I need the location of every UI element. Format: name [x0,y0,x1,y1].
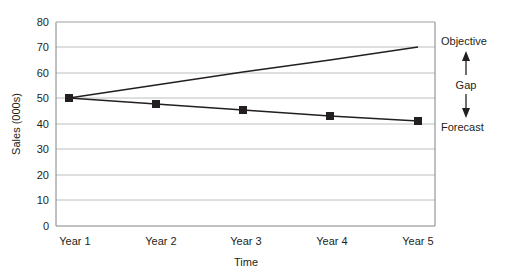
y-axis-tick-labels: 80 70 60 50 40 30 20 10 0 [37,16,49,232]
x-tick-label-year-3: Year 3 [230,235,261,247]
annotation-objective-label: Objective [441,35,487,47]
y-tick-label-60: 60 [37,67,49,79]
y-tick-label-70: 70 [37,41,49,53]
y-tick-label-20: 20 [37,169,49,181]
annotation-forecast-label: Forecast [441,121,484,133]
data-point-forecast-year-1 [65,94,73,102]
annotation-gap-label: Gap [456,79,477,91]
y-tick-label-40: 40 [37,118,49,130]
data-point-forecast-year-2 [152,100,160,108]
data-point-forecast-year-3 [239,106,247,114]
y-tick-label-10: 10 [37,194,49,206]
y-tick-label-30: 30 [37,143,49,155]
sales-objective-gap-line-chart: 80 70 60 50 40 30 20 10 0 Sales (000s) Y… [0,0,505,279]
y-tick-label-80: 80 [37,16,49,28]
y-tick-label-50: 50 [37,92,49,104]
data-point-forecast-year-4 [326,112,334,120]
y-axis-title: Sales (000s) [10,93,22,155]
x-tick-label-year-1: Year 1 [59,235,90,247]
y-tick-label-0: 0 [43,220,49,232]
chart-container: 80 70 60 50 40 30 20 10 0 Sales (000s) Y… [0,0,505,279]
data-point-forecast-year-5 [414,117,422,125]
x-tick-label-year-4: Year 4 [316,235,347,247]
x-tick-label-year-2: Year 2 [145,235,176,247]
x-axis-title: Time [234,256,258,268]
x-tick-label-year-5: Year 5 [402,235,433,247]
